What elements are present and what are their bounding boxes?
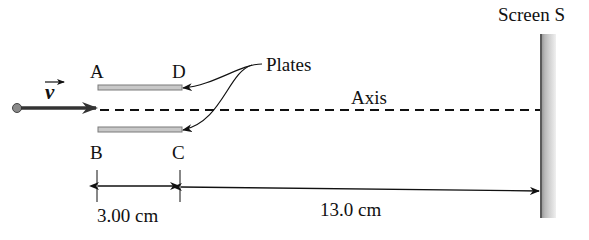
plates-pointer-arrows-icon <box>183 64 262 130</box>
plate-to-screen-label: 13.0 cm <box>320 200 381 219</box>
plate-c-label: C <box>172 143 185 162</box>
plate-ad <box>98 85 182 90</box>
plate-b-label: B <box>90 143 103 162</box>
diagram-canvas <box>0 0 589 240</box>
screen-s <box>540 34 556 218</box>
axis-label: Axis <box>351 88 387 107</box>
screen-label: Screen S <box>498 5 565 24</box>
dimension-lines <box>97 170 539 202</box>
plate-length-label: 3.00 cm <box>97 206 158 225</box>
plate-a-label: A <box>90 62 104 81</box>
plate-bc <box>98 127 182 132</box>
plate-d-label: D <box>172 62 186 81</box>
velocity-label: v <box>45 82 54 103</box>
electron-dot-icon <box>13 104 22 113</box>
deflection-diagram: v A D B C Plates Axis Screen S 3.00 cm 1… <box>0 0 589 240</box>
plates-label: Plates <box>266 55 311 74</box>
